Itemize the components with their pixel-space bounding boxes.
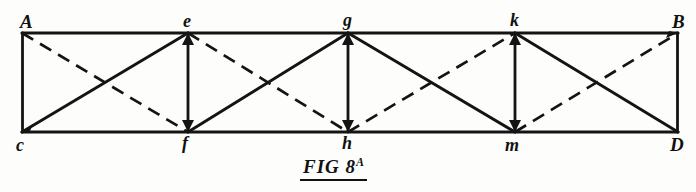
figure-caption: FIG 8A: [300, 156, 367, 181]
node-label-g: g: [343, 11, 352, 29]
node-label-f: f: [182, 134, 188, 152]
arrowheads: [22, 31, 678, 132]
node-label-B: B: [672, 12, 685, 31]
node-label-k: k: [510, 11, 519, 29]
node-label-e: e: [183, 12, 191, 30]
node-label-C: c: [16, 136, 24, 154]
figure-8a-truss-diagram: A e g k B c f h m D FIG 8A: [0, 0, 696, 192]
node-label-m: m: [505, 136, 519, 154]
node-label-D: D: [670, 135, 684, 154]
truss-members: [22, 33, 678, 132]
node-label-A: A: [20, 12, 33, 31]
figure-caption-main: FIG 8: [303, 156, 356, 177]
figure-caption-superscript: A: [356, 155, 364, 169]
node-label-h: h: [342, 134, 352, 152]
